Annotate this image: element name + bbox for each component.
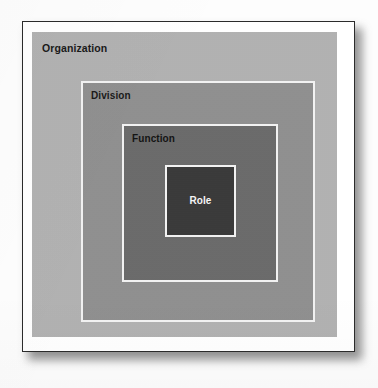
- nested-box-label-role: Role: [167, 195, 234, 206]
- nested-box-organization: Organization Division Function Role: [32, 32, 337, 337]
- figure-frame: Organization Division Function Role: [22, 21, 355, 352]
- scanned-page-background: Organization Division Function Role: [0, 0, 378, 388]
- nested-box-label-function: Function: [132, 133, 175, 144]
- nested-box-label-division: Division: [91, 90, 131, 101]
- nested-box-division: Division Function Role: [81, 81, 315, 322]
- nested-box-function: Function Role: [122, 124, 278, 282]
- nested-box-role: Role: [165, 165, 236, 237]
- nested-box-label-organization: Organization: [42, 42, 107, 54]
